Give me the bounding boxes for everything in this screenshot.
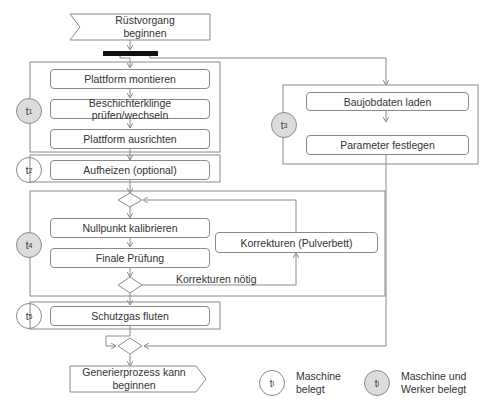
legend-sub-2: i: [378, 380, 380, 387]
end-line1: Generierprozess kann: [82, 366, 185, 379]
end-label: Generierprozess kann beginnen: [70, 366, 198, 392]
legend-machine-line1: Maschine: [296, 370, 341, 383]
end-line2: beginnen: [112, 379, 155, 392]
t4-sub: 4: [28, 242, 32, 249]
flow-connectors: [0, 0, 492, 411]
time-badge-t3: t3: [271, 112, 297, 138]
step-plattform-montieren[interactable]: Plattform montieren: [50, 69, 210, 89]
merge-diamond-bottom: [118, 338, 142, 354]
time-badge-t1: t1: [16, 98, 42, 124]
t3-sub: 3: [283, 122, 287, 129]
legend-circle-machine: ti: [259, 370, 285, 396]
merge-diamond-top: [118, 193, 142, 207]
legend-text-machine: Maschine belegt: [296, 370, 341, 396]
step-plattform-ausrichten[interactable]: Plattform ausrichten: [50, 129, 210, 149]
step-aufheizen[interactable]: Aufheizen (optional): [50, 160, 210, 180]
step-nullpunkt-kalibrieren[interactable]: Nullpunkt kalibrieren: [50, 218, 210, 238]
fork-bar: [103, 51, 158, 56]
step-parameter-festlegen[interactable]: Parameter festlegen: [306, 135, 469, 155]
decision-diamond: [118, 277, 142, 293]
step-finale-pruefung[interactable]: Finale Prüfung: [50, 248, 210, 268]
legend-circle-machine-worker: ti: [364, 370, 390, 396]
step-baujobdaten-laden[interactable]: Baujobdaten laden: [306, 92, 469, 111]
start-label: Rüstvorgang beginnen: [80, 14, 210, 40]
legend-machine-line2: belegt: [296, 383, 341, 396]
time-badge-t2: t2: [16, 157, 42, 183]
t1-sub: 1: [28, 108, 32, 115]
t5-sub: 5: [28, 313, 32, 320]
t2-sub: 2: [28, 167, 32, 174]
legend-sub: i: [273, 380, 275, 387]
time-badge-t5: t5: [16, 303, 42, 329]
step-schutzgas-fluten[interactable]: Schutzgas fluten: [50, 306, 210, 326]
step-beschichterklinge[interactable]: Beschichterklinge prüfen/wechseln: [50, 99, 210, 119]
start-line1: Rüstvorgang: [115, 14, 175, 27]
step-korrekturen-pulverbett[interactable]: Korrekturen (Pulverbett): [215, 232, 378, 253]
legend-text-machine-worker: Maschine und Werker belegt: [401, 370, 466, 396]
loop-label: Korrekturen nötig: [176, 273, 257, 286]
legend-mw-line1: Maschine und: [401, 370, 466, 383]
start-line2: beginnen: [123, 27, 166, 40]
legend-mw-line2: Werker belegt: [401, 383, 466, 396]
time-badge-t4: t4: [16, 232, 42, 258]
